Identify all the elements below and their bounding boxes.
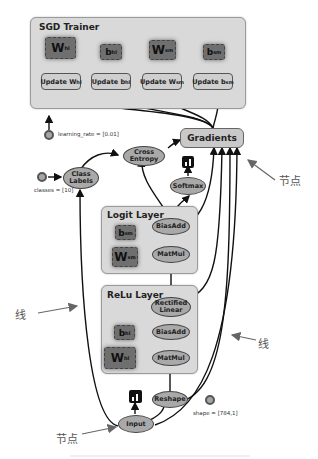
update-label: Update b <box>192 78 225 86</box>
caption-remnant <box>70 455 250 457</box>
var-sub: hl <box>124 355 129 361</box>
sgd-trainer-title: SGD Trainer <box>39 22 99 32</box>
var-sub: sm <box>165 47 173 53</box>
relu-matmul-node[interactable]: MatMul <box>152 350 190 366</box>
annotation-node-top: 节点 <box>279 172 301 188</box>
update-sub: hl <box>76 79 81 85</box>
variable-b-hl[interactable]: bhl <box>100 44 122 60</box>
variable-w-sm[interactable]: Wsm <box>149 40 176 60</box>
shape-constant-icon[interactable] <box>205 395 215 405</box>
update-sub: hl <box>125 79 130 85</box>
update-label: Update W <box>40 78 76 86</box>
softmax-node[interactable]: Softmax <box>170 177 206 195</box>
input-node[interactable]: Input <box>118 415 154 433</box>
var-sub: sm <box>128 254 136 260</box>
update-sub: sm <box>176 79 184 85</box>
softmax-summary-icon[interactable] <box>182 156 194 168</box>
var-sub: sm <box>213 49 221 55</box>
class-labels-node[interactable]: Class Labels <box>63 167 99 189</box>
logit-weight-variable[interactable]: Wsm <box>112 247 138 267</box>
var-label: W <box>152 43 165 57</box>
relu-bias-variable[interactable]: bhl <box>114 325 135 340</box>
logit-biasadd-node[interactable]: BiasAdd <box>152 218 190 235</box>
update-sub: sm <box>226 79 234 85</box>
rectified-linear-node[interactable]: Rectified Linear <box>151 297 191 317</box>
update-w-sm-node[interactable]: Update Wsm <box>142 73 182 90</box>
relu-weight-variable[interactable]: Whl <box>104 347 136 369</box>
learning-rate-label: learning_rate = [0.01] <box>58 131 119 137</box>
var-label: W <box>51 41 64 55</box>
annotation-line-left: 线 <box>15 306 26 322</box>
var-sub: hl <box>64 45 69 51</box>
classes-label: classes = [10] <box>34 187 73 193</box>
relu-biasadd-node[interactable]: BiasAdd <box>152 324 190 340</box>
update-label: Update W <box>140 78 176 86</box>
logit-matmul-node[interactable]: MatMul <box>152 246 190 263</box>
update-b-sm-node[interactable]: Update bsm <box>193 73 233 90</box>
logit-layer-title: Logit Layer <box>107 210 164 220</box>
annotation-node-bottom: 节点 <box>56 430 78 446</box>
annotation-line-right: 线 <box>258 335 269 351</box>
classes-constant-icon[interactable] <box>37 172 47 182</box>
update-b-hl-node[interactable]: Update bhl <box>91 73 131 90</box>
reshape-node[interactable]: Reshape <box>152 391 188 408</box>
sgd-trainer-group[interactable]: SGD Trainer <box>30 17 246 109</box>
var-sub: hl <box>125 330 130 336</box>
cross-entropy-node[interactable]: Cross Entropy <box>123 146 165 166</box>
var-label: W <box>114 250 127 264</box>
update-w-hl-node[interactable]: Update Whl <box>41 73 81 90</box>
logit-bias-variable[interactable]: bsm <box>115 225 136 240</box>
var-sub: hl <box>112 49 117 55</box>
learning-rate-constant-icon[interactable] <box>44 130 54 140</box>
update-label: Update b <box>92 78 125 86</box>
variable-w-hl[interactable]: Whl <box>45 37 76 59</box>
variable-b-sm[interactable]: bsm <box>203 44 225 60</box>
var-sub: sm <box>125 230 133 236</box>
var-label: W <box>111 351 124 365</box>
gradients-node[interactable]: Gradients <box>180 128 244 148</box>
shape-label: shape = [784,1] <box>193 410 238 416</box>
input-summary-icon[interactable] <box>129 390 142 403</box>
